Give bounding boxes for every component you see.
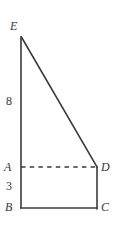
geometry-figure: E A B D C 8 3: [0, 0, 116, 226]
segment-ED: [21, 37, 97, 167]
vertex-label-a: A: [4, 161, 11, 173]
vertex-label-e: E: [10, 20, 17, 32]
vertex-label-d: D: [101, 161, 110, 173]
vertex-label-b: B: [5, 201, 12, 213]
length-label-ea: 8: [6, 95, 12, 107]
figure-canvas: [0, 0, 116, 226]
length-label-ab: 3: [6, 180, 12, 192]
vertex-label-c: C: [101, 201, 109, 213]
